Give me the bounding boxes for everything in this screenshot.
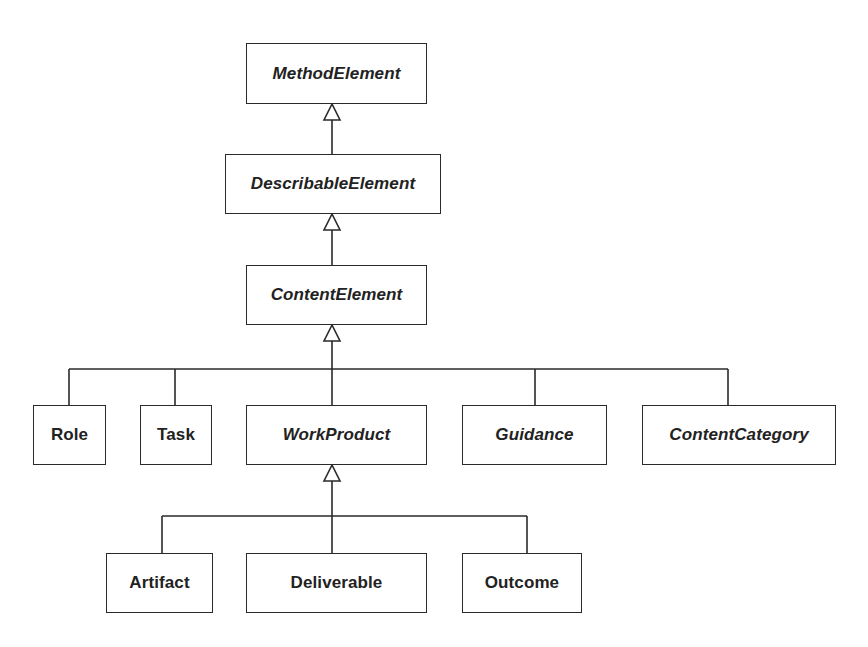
class-guidance: Guidance: [462, 405, 607, 465]
generalization-arrowhead-icon: [324, 465, 340, 481]
class-describable-element: DescribableElement: [225, 154, 441, 214]
class-method-element: MethodElement: [246, 43, 427, 104]
class-role: Role: [33, 405, 106, 465]
class-task: Task: [140, 405, 212, 465]
generalization-arrowhead-icon: [324, 214, 340, 230]
generalization-arrowhead-icon: [324, 104, 340, 120]
class-artifact: Artifact: [106, 553, 213, 613]
class-deliverable: Deliverable: [246, 553, 427, 613]
class-content-category: ContentCategory: [642, 405, 836, 465]
generalization-arrowhead-icon: [324, 325, 340, 341]
class-outcome: Outcome: [462, 553, 582, 613]
class-work-product: WorkProduct: [246, 405, 427, 465]
class-content-element: ContentElement: [246, 265, 427, 325]
uml-class-diagram: MethodElement DescribableElement Content…: [0, 0, 868, 647]
generalization-connectors: [0, 0, 868, 647]
